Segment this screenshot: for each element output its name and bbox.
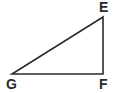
vertex-label-e: E [99,0,108,14]
vertex-label-g: G [6,77,17,91]
triangle-efg-shape [12,17,103,74]
geometry-figure: E F G [0,0,116,93]
vertex-label-f: F [99,77,108,91]
